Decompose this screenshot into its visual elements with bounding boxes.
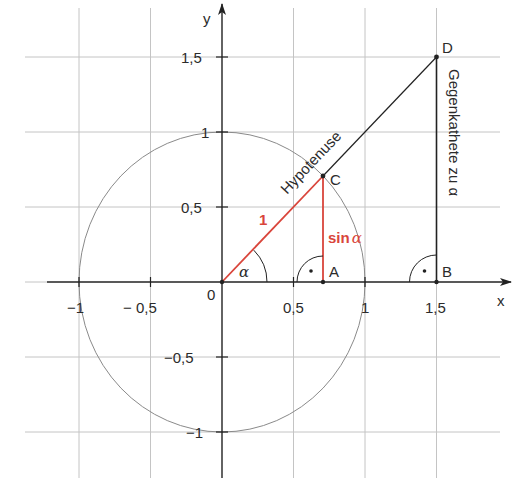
x-tick-label-1: 1 xyxy=(361,299,369,316)
radius-label: 1 xyxy=(259,211,267,228)
x-tick-label-minus-0.5: − 0,5 xyxy=(123,299,157,316)
grid xyxy=(25,8,500,478)
right-angle-arc-b xyxy=(410,255,437,282)
y-axis-label: y xyxy=(203,10,211,27)
point-c-label: C xyxy=(330,171,341,188)
point-a xyxy=(321,280,325,284)
sine-label-sin: sin xyxy=(328,229,350,246)
x-tick-label-minus-1: −1 xyxy=(67,299,84,316)
sine-label-alpha: α xyxy=(352,229,362,247)
point-b-label: B xyxy=(442,263,452,280)
point-b xyxy=(434,280,438,284)
right-angle-arc-a xyxy=(297,256,323,282)
x-tick-label-1.5: 1,5 xyxy=(425,299,446,316)
y-tick-label-1.5: 1,5 xyxy=(181,49,202,66)
right-angle-dot-a xyxy=(309,269,313,273)
right-angle-dot-b xyxy=(423,269,427,273)
point-c xyxy=(321,174,326,179)
y-tick-label-1: 1 xyxy=(201,124,209,141)
y-tick-label-0.5: 0,5 xyxy=(181,199,202,216)
x-axis-label: x xyxy=(497,292,505,309)
y-tick-label-minus-0.5: −0,5 xyxy=(164,349,194,366)
point-origin xyxy=(220,280,224,284)
point-a-label: A xyxy=(329,263,339,280)
y-tick-label-minus-1: −1 xyxy=(186,424,203,441)
hypotenuse-line xyxy=(323,57,437,176)
point-d xyxy=(434,55,439,60)
x-tick-label-0.5: 0,5 xyxy=(283,299,304,316)
radius-line xyxy=(222,176,323,282)
origin-label: 0 xyxy=(207,286,215,303)
unit-circle-diagram: x y 0 −1 − 0,5 0,5 1 1,5 1,5 1 0,5 −0,5 … xyxy=(0,0,520,499)
sine-label: sinα xyxy=(328,229,362,247)
opposite-side-label: Gegenkathete zu α xyxy=(446,69,463,196)
alpha-angle-arc xyxy=(254,250,267,282)
point-d-label: D xyxy=(442,39,453,56)
alpha-angle-label: α xyxy=(239,263,249,281)
